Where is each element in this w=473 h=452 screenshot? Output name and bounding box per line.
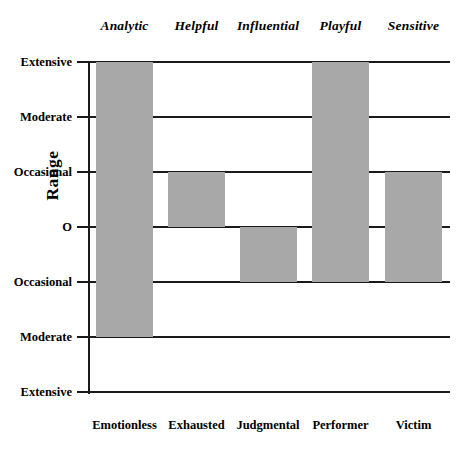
y-axis-tick-label: Extensive [21, 385, 72, 399]
bar [168, 172, 225, 227]
top-category-label: Sensitive [354, 17, 473, 35]
bottom-category-label: Victim [354, 416, 473, 434]
top-category-labels: AnalyticHelpfulInfluentialPlayfulSensiti… [88, 17, 450, 37]
y-axis-tick-label-wrap: Occasional [0, 275, 72, 289]
y-axis-tick [77, 171, 88, 173]
y-axis-tick-label: Moderate [20, 330, 72, 344]
bar [385, 172, 442, 282]
bottom-category-labels: EmotionlessExhaustedJudgmentalPerformerV… [88, 416, 450, 436]
y-axis-tick-label: Extensive [21, 55, 72, 69]
bar [240, 227, 297, 282]
y-axis-tick [77, 336, 88, 338]
bar [312, 62, 369, 282]
y-axis-tick-label-wrap: Moderate [0, 330, 72, 344]
range-bar-chart: AnalyticHelpfulInfluentialPlayfulSensiti… [0, 0, 473, 452]
y-axis-title: Range [42, 116, 63, 236]
bar [96, 62, 153, 337]
plot-area [88, 62, 450, 392]
y-axis-tick-label: O [62, 220, 72, 234]
y-axis-tick [77, 226, 88, 228]
y-axis-tick-label: Occasional [14, 275, 72, 289]
gridline [88, 391, 450, 393]
y-axis-tick [77, 391, 88, 393]
y-axis-tick [77, 61, 88, 63]
y-axis-tick [77, 281, 88, 283]
y-axis-tick [77, 116, 88, 118]
y-axis-tick-label-wrap: Extensive [0, 385, 72, 399]
y-axis-tick-label-wrap: Extensive [0, 55, 72, 69]
